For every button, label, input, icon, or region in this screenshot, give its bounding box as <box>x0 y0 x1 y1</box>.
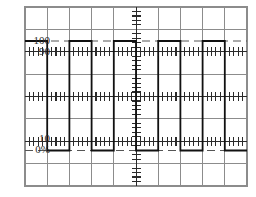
axis-label-0-percent: 0% <box>35 144 50 155</box>
oscilloscope-figure: 100 90 10 0% <box>0 0 256 197</box>
graticule-canvas <box>0 0 256 197</box>
axis-label-90: 90 <box>39 46 50 57</box>
